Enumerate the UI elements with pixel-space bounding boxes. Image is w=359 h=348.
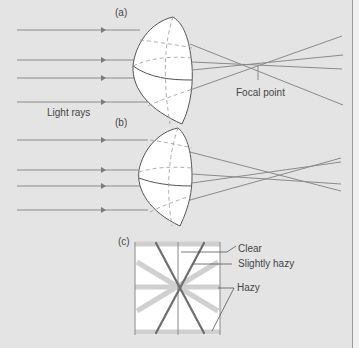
panel-c-grid: [135, 242, 220, 335]
light-rays-label: Light rays: [47, 107, 90, 118]
panel-c-label: (c): [118, 236, 130, 247]
panel-b-label: (b): [115, 117, 127, 128]
panel-b-incoming-rays: [17, 140, 148, 210]
slightly-hazy-label: Slightly hazy: [238, 258, 294, 269]
hazy-label: Hazy: [237, 282, 260, 293]
panel-b-lens: [139, 128, 192, 226]
panel-b-arrow-icons: [101, 137, 106, 213]
focal-point-label: Focal point: [236, 87, 285, 98]
page-margin: [353, 0, 359, 348]
lens-diagram: [0, 0, 352, 348]
panel-a-arrow-icons: [101, 27, 106, 105]
clear-label: Clear: [238, 243, 262, 254]
panel-a-incoming-rays: [17, 30, 148, 102]
panel-a-lens: [133, 17, 192, 124]
panel-b-refracted-rays: [190, 152, 341, 200]
panel-a-label: (a): [115, 7, 127, 18]
